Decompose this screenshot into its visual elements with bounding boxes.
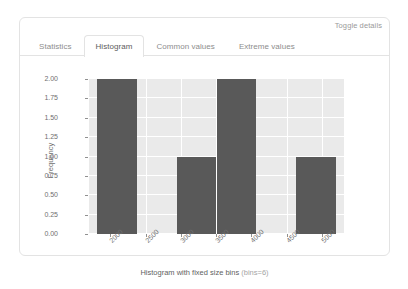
y-tick-label: 0.25 — [44, 211, 58, 219]
tab-label: Histogram — [96, 42, 133, 51]
y-tick-label: 1.00 — [44, 153, 58, 161]
y-tick-mark — [85, 79, 88, 80]
y-tick-label: 1.50 — [44, 114, 58, 122]
y-tick-mark — [85, 215, 88, 216]
gridline-vertical — [146, 79, 147, 234]
plot-area — [89, 79, 344, 234]
histogram-bar — [177, 157, 217, 235]
histogram-panel: Toggle details StatisticsHistogramCommon… — [19, 17, 390, 256]
tab-label: Statistics — [39, 42, 72, 51]
toggle-details-button[interactable]: Toggle details — [335, 21, 382, 31]
y-tick-mark — [85, 176, 88, 177]
y-tick-mark — [85, 234, 88, 235]
y-tick-label: 0.00 — [44, 230, 58, 238]
tab-bar: StatisticsHistogramCommon valuesExtreme … — [20, 34, 389, 56]
histogram-bar — [217, 79, 257, 234]
y-tick-mark — [85, 137, 88, 138]
y-tick-label: 0.50 — [44, 191, 58, 199]
y-tick-mark — [85, 195, 88, 196]
y-tick-label: 2.00 — [44, 75, 58, 83]
histogram-bar — [296, 157, 336, 235]
chart-title-main: Histogram with fixed size bins — [140, 268, 239, 277]
histogram-bar — [97, 79, 137, 234]
tab-common-values[interactable]: Common values — [144, 35, 226, 56]
y-tick-mark — [85, 118, 88, 119]
chart-title: Histogram with fixed size bins (bins=6) — [20, 268, 389, 277]
tab-histogram[interactable]: Histogram — [84, 35, 145, 57]
tab-statistics[interactable]: Statistics — [27, 35, 84, 56]
chart-title-bins: (bins=6) — [241, 268, 268, 277]
y-tick-mark — [85, 98, 88, 99]
y-tick-mark — [85, 157, 88, 158]
tab-label: Extreme values — [239, 42, 295, 51]
tab-label: Common values — [156, 42, 214, 51]
tab-extreme-values[interactable]: Extreme values — [227, 35, 307, 56]
gridline-vertical — [287, 79, 288, 234]
histogram-chart: Frequency Histogram with fixed size bins… — [20, 56, 389, 256]
y-tick-label: 1.75 — [44, 94, 58, 102]
y-tick-label: 0.75 — [44, 172, 58, 180]
y-tick-label: 1.25 — [44, 133, 58, 141]
